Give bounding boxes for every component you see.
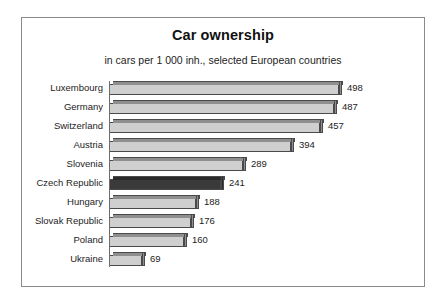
bar-category-label: Hungary (0, 196, 103, 207)
bar-face (110, 122, 320, 133)
bar-end-cap (291, 138, 294, 152)
bar-row: Poland160 (22, 231, 424, 250)
bar (110, 138, 294, 152)
bar-top-shade (113, 157, 247, 161)
bar-top-shade (113, 138, 295, 142)
bar-value-label: 176 (199, 215, 215, 226)
bar (110, 100, 337, 114)
bar-end-cap (334, 100, 337, 114)
bar-category-label: Luxembourg (0, 82, 103, 93)
bar-value-label: 160 (192, 234, 208, 245)
chart-title: Car ownership (22, 27, 424, 43)
bar-value-label: 188 (204, 196, 220, 207)
bar-row: Luxembourg498 (22, 79, 424, 98)
bar (110, 252, 145, 266)
bar-value-label: 487 (342, 101, 358, 112)
bar-row: Slovak Republic176 (22, 212, 424, 231)
bar-category-label: Czech Republic (0, 177, 103, 188)
bar-face (110, 160, 243, 171)
bar-row: Ukraine69 (22, 250, 424, 269)
bar (110, 81, 342, 95)
bar-face (110, 84, 339, 95)
bar-value-label: 241 (229, 177, 245, 188)
bar-end-cap (184, 233, 187, 247)
bar (110, 233, 187, 247)
bar-category-label: Slovak Republic (0, 215, 103, 226)
bar-value-label: 289 (251, 158, 267, 169)
bar-end-cap (142, 252, 145, 266)
bar-category-label: Poland (0, 234, 103, 245)
bar-face (110, 198, 196, 209)
bar-row: Switzerland457 (22, 117, 424, 136)
bar-row: Slovenia289 (22, 155, 424, 174)
bar-top-shade (113, 195, 200, 199)
bar-row: Hungary188 (22, 193, 424, 212)
bar-end-cap (339, 81, 342, 95)
bar (110, 176, 224, 190)
bar (110, 157, 246, 171)
bar-category-label: Ukraine (0, 253, 103, 264)
bar-face (110, 217, 191, 228)
bar-top-shade (113, 119, 324, 123)
bar-value-label: 394 (299, 139, 315, 150)
bar (110, 119, 323, 133)
bar-row: Austria394 (22, 136, 424, 155)
bar-top-shade (113, 100, 338, 104)
bar-end-cap (320, 119, 323, 133)
bar (110, 214, 194, 228)
bar-end-cap (243, 157, 246, 171)
bar-value-label: 457 (328, 120, 344, 131)
bar-top-shade (113, 176, 225, 180)
bar-face (110, 141, 291, 152)
bar-end-cap (221, 176, 224, 190)
bar-category-label: Germany (0, 101, 103, 112)
bar-top-shade (113, 81, 343, 85)
bar-row: Czech Republic241 (22, 174, 424, 193)
bar-end-cap (191, 214, 194, 228)
bar-end-cap (196, 195, 199, 209)
bar-value-label: 69 (150, 253, 161, 264)
bar-series: Luxembourg498Germany487Switzerland457Aus… (22, 79, 424, 269)
plot-area: Luxembourg498Germany487Switzerland457Aus… (22, 79, 424, 275)
bar-face (110, 103, 334, 114)
bar-category-label: Switzerland (0, 120, 103, 131)
bar-face (110, 179, 221, 190)
bar-face (110, 236, 184, 247)
bar-category-label: Slovenia (0, 158, 103, 169)
bar-top-shade (113, 233, 188, 237)
bar-face (110, 255, 142, 266)
chart-subtitle: in cars per 1 000 inh., selected Europea… (22, 54, 424, 66)
bar (110, 195, 199, 209)
bar-category-label: Austria (0, 139, 103, 150)
bar-row: Germany487 (22, 98, 424, 117)
chart-frame: Car ownership in cars per 1 000 inh., se… (21, 17, 425, 287)
bar-top-shade (113, 214, 195, 218)
bar-value-label: 498 (347, 82, 363, 93)
